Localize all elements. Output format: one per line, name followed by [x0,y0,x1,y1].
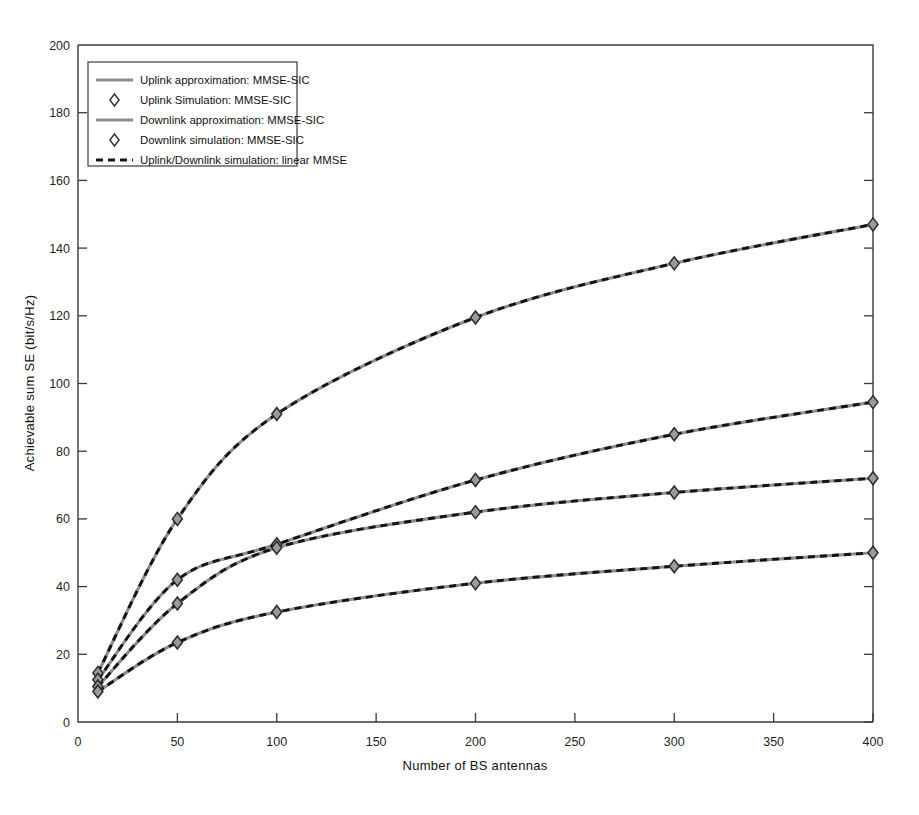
y-tick-label: 140 [49,242,70,256]
x-tick-label: 300 [664,735,685,749]
legend-item-label: Uplink Simulation: MMSE-SIC [140,94,291,106]
x-tick-label: 200 [465,735,486,749]
y-tick-label: 20 [56,648,70,662]
legend-item-label: Uplink approximation: MMSE-SIC [140,74,310,86]
legend-item-label: Uplink/Downlink simulation: linear MMSE [140,154,347,166]
y-tick-label: 180 [49,106,70,120]
x-tick-label: 150 [366,735,387,749]
x-tick-label: 250 [564,735,585,749]
y-tick-label: 100 [49,377,70,391]
x-tick-label: 0 [75,735,82,749]
y-tick-label: 0 [63,716,70,730]
y-tick-label: 200 [49,39,70,53]
chart-figure: 050100150200250300350400 020406080100120… [0,0,919,815]
y-tick-label: 160 [49,174,70,188]
y-tick-label: 120 [49,309,70,323]
legend-item-label: Downlink simulation: MMSE-SIC [140,134,304,146]
y-tick-label: 40 [56,580,70,594]
x-tick-label: 100 [266,735,287,749]
x-tick-label: 400 [863,735,884,749]
x-axis-label: Number of BS antennas [402,758,547,773]
y-tick-label: 60 [56,512,70,526]
legend-item-label: Downlink approximation: MMSE-SIC [140,114,324,126]
x-tick-label: 350 [763,735,784,749]
y-tick-label: 80 [56,445,70,459]
chart-svg: 050100150200250300350400 020406080100120… [0,0,919,815]
x-tick-label: 50 [170,735,184,749]
y-axis-label: Achievable sum SE (bit/s/Hz) [22,295,37,472]
